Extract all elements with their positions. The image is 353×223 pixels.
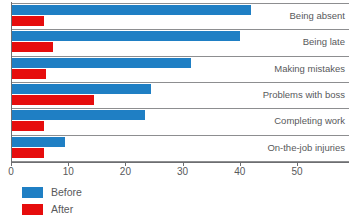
category-label: Being absent xyxy=(290,10,345,21)
bar-before xyxy=(11,31,240,41)
x-tick-label: 20 xyxy=(120,166,131,178)
value-axis-line xyxy=(11,162,349,163)
bar-after xyxy=(11,42,53,52)
category-label: On-the-job injuries xyxy=(267,142,345,153)
bar-after xyxy=(11,69,46,79)
bar-after xyxy=(11,95,94,105)
x-tick-label: 30 xyxy=(177,166,188,178)
category-axis-line xyxy=(11,2,12,162)
x-tick-label: 40 xyxy=(234,166,245,178)
legend-swatch-after-icon xyxy=(22,204,43,215)
bar-after xyxy=(11,16,44,26)
bar-after xyxy=(11,121,44,131)
legend-label-before: Before xyxy=(51,186,82,199)
bar-before xyxy=(11,58,191,68)
legend-swatch-before-icon xyxy=(22,187,43,198)
bar-before xyxy=(11,137,65,147)
plot-area: Being absentBeing lateMaking mistakesPro… xyxy=(11,3,349,161)
category-label: Problems with boss xyxy=(263,89,345,100)
chart-row: Being absent xyxy=(11,3,349,29)
x-tick-label: 50 xyxy=(291,166,302,178)
horizontal-bar-chart: Being absentBeing lateMaking mistakesPro… xyxy=(0,0,353,223)
chart-row: On-the-job injuries xyxy=(11,135,349,161)
x-tick-label: 10 xyxy=(63,166,74,178)
x-tick-label: 0 xyxy=(8,166,14,178)
category-label: Being late xyxy=(303,36,345,47)
bar-before xyxy=(11,84,151,94)
bar-before xyxy=(11,110,145,120)
chart-row: Completing work xyxy=(11,108,349,134)
chart-row: Making mistakes xyxy=(11,56,349,82)
category-label: Completing work xyxy=(274,115,345,126)
category-label: Making mistakes xyxy=(274,63,345,74)
legend-label-after: After xyxy=(51,203,73,216)
chart-row: Being late xyxy=(11,29,349,55)
bar-after xyxy=(11,148,44,158)
chart-row: Problems with boss xyxy=(11,82,349,108)
bar-before xyxy=(11,5,251,15)
